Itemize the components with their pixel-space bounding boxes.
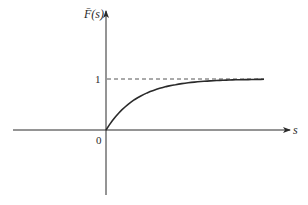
- x-axis-label: s: [293, 123, 298, 137]
- y-axis-label: F̄(s): [83, 7, 104, 21]
- chart-canvas: F̄(s) s 1 0: [0, 0, 308, 205]
- curve-line: [106, 79, 264, 130]
- origin-label: 0: [96, 134, 102, 146]
- tick-label-one: 1: [95, 73, 101, 85]
